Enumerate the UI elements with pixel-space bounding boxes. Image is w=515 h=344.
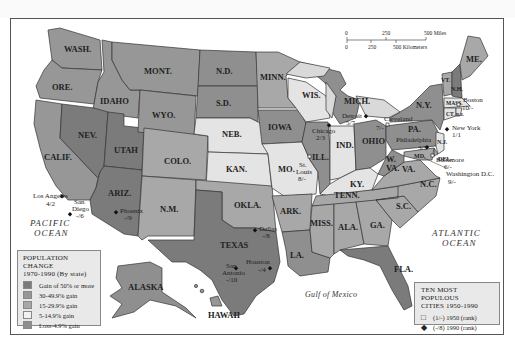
scale-miles-500: 500 Miles xyxy=(424,30,446,36)
label-nh: N.H. xyxy=(451,86,464,92)
label-sd: S.D. xyxy=(216,98,231,108)
label-miss: MISS. xyxy=(310,218,333,228)
label-atlantic-2: OCEAN xyxy=(442,238,477,248)
label-nc: N.C. xyxy=(420,179,437,189)
legend-item-15-29: 15-29.9% gain xyxy=(23,300,95,310)
city-new-york-rank: 1/1 xyxy=(452,131,461,139)
legend-item-5-14: 5-14.9% gain xyxy=(23,310,95,320)
label-wis: WIS. xyxy=(302,90,321,100)
legend-swatch xyxy=(23,281,32,289)
diamond-icon: ◆ xyxy=(421,323,433,332)
label-ri: R.I. xyxy=(456,112,465,117)
scale-miles-0: 0 xyxy=(345,30,348,36)
state-vt[interactable] xyxy=(442,72,452,96)
scale-miles-250: 250 xyxy=(382,30,391,36)
label-va: VA. xyxy=(402,164,415,174)
label-la: LA. xyxy=(290,250,304,260)
population-legend: POPULATION CHANGE 1970-1990 (By state) G… xyxy=(17,250,101,326)
scale-km-250: 250 xyxy=(368,44,377,50)
cities-legend: TEN MOST POPULOUS CITIES 1950-1990 □(1/-… xyxy=(414,282,500,325)
legend-label: Gain of 50% or more xyxy=(39,282,94,289)
state-utah[interactable] xyxy=(104,112,144,170)
city-marker-cleveland[interactable] xyxy=(386,123,389,126)
label-nd: N.D. xyxy=(216,66,233,76)
label-calif: CALIF. xyxy=(44,152,72,162)
city-houston: Houston xyxy=(246,258,270,266)
scale-km-500: 500 Kilometers xyxy=(393,44,427,50)
city-marker-boston[interactable] xyxy=(457,103,460,106)
label-wva-2: VA. xyxy=(386,163,399,173)
label-conn: CT. xyxy=(446,111,455,117)
label-wash: WASH. xyxy=(64,44,91,54)
label-mo: MO. xyxy=(278,164,295,174)
label-mass: MASS. xyxy=(446,100,463,106)
city-los-angeles-rank: 4/2 xyxy=(46,200,55,208)
city-houston-rank: -/4 xyxy=(258,266,266,274)
state-miss[interactable] xyxy=(310,204,334,258)
city-boston-rank: 10/- xyxy=(462,104,474,112)
city-philadelphia-rank: 3/5 xyxy=(418,144,427,152)
label-ny: N.Y. xyxy=(416,100,432,110)
city-washington-dc-rank: 9/- xyxy=(448,178,456,186)
label-vt: VT. xyxy=(441,77,451,83)
label-alaska: ALASKA xyxy=(128,282,164,292)
label-idaho: IDAHO xyxy=(100,96,129,106)
label-gulf: Gulf of Mexico xyxy=(305,290,357,299)
scale-bar xyxy=(347,37,426,43)
legend-item-loss: Loss-4.9% gain xyxy=(23,320,95,330)
city-washington-dc: Washington D.C. xyxy=(446,170,494,178)
label-me: ME. xyxy=(466,54,482,64)
city-los-angeles: Los Angeles xyxy=(33,192,68,200)
label-atlantic-1: ATLANTIC xyxy=(431,228,481,238)
city-detroit-rank: 5/7 xyxy=(346,119,355,127)
label-neb: NEB. xyxy=(222,129,242,139)
hawaii-island xyxy=(200,289,204,293)
label-ill: ILL. xyxy=(312,152,329,162)
label-minn: MINN. xyxy=(260,72,286,82)
cities-legend-title-2: CITIES 1950-1990 xyxy=(421,302,493,310)
city-boston: Boston xyxy=(463,96,483,104)
legend-swatch xyxy=(23,301,32,309)
label-texas: TEXAS xyxy=(220,240,249,250)
city-san-diego-rank: -/6 xyxy=(76,212,84,220)
city-san-antonio-rank: -/10 xyxy=(226,276,238,284)
state-fla[interactable] xyxy=(340,246,412,310)
state-colo[interactable] xyxy=(142,128,208,180)
legend-label: (1/-) 1950 (rank) xyxy=(433,314,477,321)
legend-swatch xyxy=(23,291,32,299)
label-pacific-1: PACIFIC xyxy=(29,218,70,228)
label-ariz: ARIZ. xyxy=(108,188,131,198)
city-phoenix-rank: -/9 xyxy=(124,214,132,222)
city-marker-st-louis[interactable] xyxy=(308,155,311,158)
label-hawaii: HAWAII xyxy=(208,310,241,320)
label-nm: N.M. xyxy=(160,204,178,214)
legend-label: (-/8) 1990 (rank) xyxy=(433,324,477,331)
label-fla: FLA. xyxy=(394,264,413,274)
legend-label: 15-29.9% gain xyxy=(39,302,77,309)
label-nj: N.J. xyxy=(437,139,448,145)
label-pa: PA. xyxy=(408,124,421,134)
city-cleveland: Cleveland xyxy=(384,115,413,123)
city-marker-new-york[interactable] xyxy=(445,127,449,131)
label-wyo: WYO. xyxy=(152,110,175,120)
city-cleveland-rank: 7/- xyxy=(376,124,384,132)
state-hawaii[interactable] xyxy=(210,296,222,306)
legend-subtitle: 1970-1990 (By state) xyxy=(23,270,95,278)
legend-item-30-49: 30-49.9% gain xyxy=(23,290,95,300)
label-ala: ALA. xyxy=(338,222,358,232)
label-utah: UTAH xyxy=(114,145,138,155)
legend-label: 30-49.9% gain xyxy=(39,292,77,299)
city-st-louis-rank: 8/- xyxy=(298,175,306,183)
label-ky: KY. xyxy=(350,179,364,189)
label-colo: COLO. xyxy=(164,156,191,166)
label-nev: NEV. xyxy=(78,130,97,140)
legend-label: 5-14.9% gain xyxy=(39,312,74,319)
label-ind: IND. xyxy=(336,140,354,150)
legend-label: Loss-4.9% gain xyxy=(39,322,80,329)
legend-item-50-plus: Gain of 50% or more xyxy=(23,280,95,290)
label-pacific-2: OCEAN xyxy=(34,228,69,238)
hawaii-island xyxy=(194,284,197,287)
city-chicago-rank: 2/3 xyxy=(316,134,325,142)
city-marker-baltimore[interactable] xyxy=(431,154,434,157)
label-iowa: IOWA xyxy=(268,122,292,132)
